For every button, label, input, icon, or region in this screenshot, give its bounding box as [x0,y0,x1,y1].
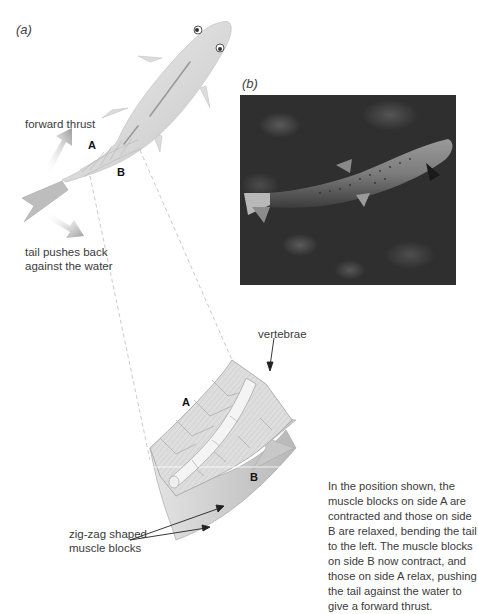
figure-caption: In the position shown, the muscle blocks… [328,479,478,614]
tail-push-arrow [46,212,84,238]
detail-side-a-letter: A [182,396,190,408]
vertebrae-label: vertebrae [258,327,307,341]
tail-push-label-line1: tail pushes back [25,245,113,259]
muscle-blocks-label-line2: muscle blocks [69,541,147,555]
muscle-blocks-label-line1: zig-zag shaped [69,527,147,541]
tail-push-label: tail pushes back against the water [25,245,113,273]
trout-photo [240,95,456,285]
side-a-letter: A [88,139,96,151]
panel-b-label: (b) [242,76,258,91]
muscle-segment [150,360,300,540]
vertebrae-pointer-arrow [267,338,274,371]
side-b-letter: B [117,166,125,178]
detail-side-b-letter: B [250,471,258,483]
tail-push-label-line2: against the water [25,259,113,273]
tail-fin [22,181,68,222]
trout-icon [240,95,456,285]
muscle-blocks-label: zig-zag shaped muscle blocks [69,527,147,555]
forward-thrust-arrow [44,128,72,174]
fish-body [62,21,231,182]
forward-thrust-label: forward thrust [25,117,95,131]
